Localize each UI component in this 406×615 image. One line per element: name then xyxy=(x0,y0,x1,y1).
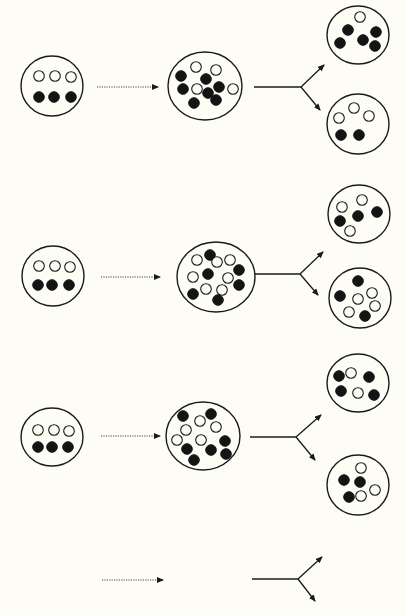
filled-dot xyxy=(336,130,347,141)
open-dot xyxy=(172,435,183,446)
filled-dot xyxy=(47,280,58,291)
open-dot xyxy=(334,113,345,124)
open-dot xyxy=(50,71,61,82)
open-dot xyxy=(346,368,357,379)
open-dot xyxy=(223,273,234,284)
open-dot xyxy=(201,284,212,295)
filled-dot xyxy=(370,41,381,52)
filled-dot xyxy=(369,390,380,401)
diagram-rows xyxy=(21,6,391,601)
filled-dot xyxy=(371,27,382,38)
filled-dot xyxy=(49,92,60,103)
daughter-population-bottom xyxy=(327,455,389,515)
daughter-population-bottom xyxy=(327,94,389,154)
open-dot xyxy=(211,65,222,76)
filled-dot xyxy=(64,280,75,291)
filled-dot xyxy=(335,38,346,49)
fork-arrow-up xyxy=(301,65,324,87)
open-dot xyxy=(64,426,75,437)
filled-dot xyxy=(206,445,217,456)
filled-dot xyxy=(34,92,45,103)
filled-dot xyxy=(344,492,355,503)
open-dot xyxy=(211,422,222,433)
open-dot xyxy=(191,62,202,73)
open-dot xyxy=(356,491,367,502)
split-fork xyxy=(252,557,322,601)
daughter-population-top xyxy=(328,185,390,243)
open-dot xyxy=(181,425,192,436)
daughter-population-top xyxy=(327,6,389,64)
fork-arrow-up xyxy=(296,415,321,437)
daughter-population-bottom xyxy=(329,268,391,328)
open-dot xyxy=(65,262,76,273)
open-dot xyxy=(228,84,239,95)
open-dot xyxy=(50,261,61,272)
split-fork xyxy=(254,65,324,110)
row-2 xyxy=(22,185,391,328)
filled-dot xyxy=(214,82,225,93)
open-dot xyxy=(364,111,375,122)
filled-dot xyxy=(182,444,193,455)
open-dot xyxy=(217,285,228,296)
filled-dot xyxy=(213,295,224,306)
filled-dot xyxy=(343,25,354,36)
population-split-diagram xyxy=(0,0,406,615)
filled-dot xyxy=(234,265,245,276)
mixed-population xyxy=(166,402,240,470)
filled-dot xyxy=(339,475,350,486)
source-population-boundary xyxy=(21,56,83,116)
filled-dot xyxy=(354,130,365,141)
source-population-boundary xyxy=(22,246,84,306)
filled-dot xyxy=(334,371,345,382)
fork-arrow-up xyxy=(298,557,322,579)
open-dot xyxy=(196,435,207,446)
mixed-population xyxy=(168,52,242,120)
filled-dot xyxy=(63,442,74,453)
source-population xyxy=(22,246,84,306)
filled-dot xyxy=(353,276,364,287)
open-dot xyxy=(349,103,360,114)
source-population-boundary xyxy=(21,408,83,466)
source-population xyxy=(21,408,83,466)
row-4 xyxy=(102,557,322,601)
filled-dot xyxy=(176,71,187,82)
fork-arrow-down xyxy=(296,437,315,460)
filled-dot xyxy=(234,280,245,291)
filled-dot xyxy=(206,409,217,420)
split-fork xyxy=(250,415,321,460)
daughter-population-top-boundary xyxy=(327,354,389,412)
filled-dot xyxy=(188,289,199,300)
filled-dot xyxy=(189,98,200,109)
open-dot xyxy=(356,463,367,474)
filled-dot xyxy=(189,455,200,466)
open-dot xyxy=(344,307,355,318)
filled-dot xyxy=(336,386,347,397)
open-dot xyxy=(345,226,356,237)
fork-arrow-up xyxy=(300,252,323,274)
open-dot xyxy=(195,416,206,427)
filled-dot xyxy=(335,291,346,302)
filled-dot xyxy=(66,92,77,103)
filled-dot xyxy=(203,269,214,280)
filled-dot xyxy=(355,477,366,488)
filled-dot xyxy=(178,84,189,95)
source-population xyxy=(21,56,83,116)
filled-dot xyxy=(201,74,212,85)
fork-arrow-down xyxy=(300,274,318,295)
open-dot xyxy=(212,257,223,268)
open-dot xyxy=(353,388,364,399)
open-dot xyxy=(188,272,199,283)
open-dot xyxy=(49,425,60,436)
filled-dot xyxy=(360,311,371,322)
split-fork xyxy=(255,252,323,295)
filled-dot xyxy=(364,372,375,383)
filled-dot xyxy=(220,436,231,447)
filled-dot xyxy=(358,35,369,46)
open-dot xyxy=(370,301,381,312)
open-dot xyxy=(355,12,366,23)
mixed-population xyxy=(177,242,255,312)
daughter-population-top xyxy=(327,354,389,412)
row-3 xyxy=(21,354,389,515)
filled-dot xyxy=(47,442,58,453)
open-dot xyxy=(337,202,348,213)
